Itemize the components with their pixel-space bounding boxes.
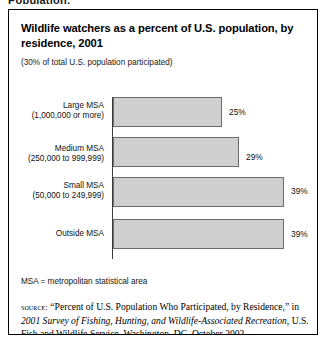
bar-category-label-line1: Medium MSA	[55, 144, 104, 153]
figure-title: Wildlife watchers as a percent of U.S. p…	[21, 21, 299, 50]
bar-category-label: Medium MSA (250,000 to 999,999)	[14, 144, 104, 164]
source-label: source:	[21, 302, 48, 312]
bar-value-label: 39%	[291, 186, 308, 196]
source-note: source: “Percent of U.S. Population Who …	[21, 300, 309, 335]
bar-medium-msa	[113, 137, 239, 167]
figure-frame: Wildlife watchers as a percent of U.S. p…	[8, 9, 318, 335]
cutoff-running-header: Population:	[8, 0, 128, 4]
bar-row: Medium MSA (250,000 to 999,999) 29%	[9, 137, 317, 167]
bar-outside-msa	[113, 219, 284, 249]
figure-subtitle: (30% of total U.S. population participat…	[21, 57, 301, 68]
bar-category-label-line2: (250,000 to 999,999)	[14, 154, 104, 164]
bar-category-label-line1: Outside MSA	[56, 229, 104, 238]
bar-row: Small MSA (50,000 to 249,999) 39%	[9, 177, 317, 207]
bar-category-label-line1: Large MSA	[63, 101, 104, 110]
bar-category-label: Small MSA (50,000 to 249,999)	[14, 181, 104, 201]
bar-value-label: 29%	[246, 152, 263, 162]
bar-chart-plot-area: Large MSA (1,000,000 or more) 25% Medium…	[9, 95, 317, 263]
bar-category-label-line1: Small MSA	[64, 181, 105, 190]
bar-category-label: Large MSA (1,000,000 or more)	[14, 101, 104, 121]
source-in-word: in	[292, 301, 299, 312]
bar-value-label: 25%	[229, 107, 246, 117]
bar-category-label-line2: (50,000 to 249,999)	[14, 191, 104, 201]
bar-small-msa	[113, 177, 284, 207]
figure-page: Population: Wildlife watchers as a perce…	[0, 0, 331, 341]
msa-definition-footnote: MSA = metropolitan statistical area	[21, 276, 147, 287]
bar-value-label: 39%	[291, 229, 308, 239]
source-publication: 2001 Survey of Fishing, Hunting, and Wil…	[21, 315, 289, 326]
bar-row: Outside MSA 39%	[9, 219, 317, 249]
source-quote: “Percent of U.S. Population Who Particip…	[50, 301, 289, 312]
bar-category-label-line2: (1,000,000 or more)	[14, 111, 104, 121]
bar-category-label: Outside MSA	[14, 229, 104, 239]
bar-row: Large MSA (1,000,000 or more) 25%	[9, 97, 317, 127]
bar-large-msa	[113, 97, 222, 127]
